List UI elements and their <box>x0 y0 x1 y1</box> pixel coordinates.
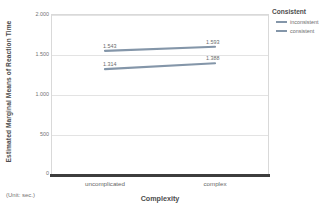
y-tick-label: 500 <box>23 132 49 137</box>
y-axis-title-text: Estimated Marginal Means of Reaction Tim… <box>6 20 13 162</box>
point-label-inconsistent-complex: 1.593 <box>206 40 220 45</box>
x-axis-line <box>50 174 270 177</box>
y-axis-title: Estimated Marginal Means of Reaction Tim… <box>0 0 18 182</box>
y-tick-label: 1.000 <box>23 92 49 97</box>
point-label-consistent-complex: 1.388 <box>206 56 220 61</box>
legend: Consistent inconsistent consistent <box>272 8 322 36</box>
unit-footnote: (Unit: sec.) <box>6 192 35 198</box>
legend-swatch-icon <box>276 21 287 23</box>
y-tick-label: 1.500 <box>23 52 49 57</box>
y-tick-label: 0 <box>23 171 49 176</box>
profile-plot: Estimated Marginal Means of Reaction Tim… <box>0 0 322 215</box>
legend-item-consistent[interactable]: consistent <box>276 28 322 34</box>
point-label-consistent-uncomplicated: 1.314 <box>103 62 117 67</box>
x-tick-label-uncomplicated: uncomplicated <box>85 180 125 187</box>
legend-item-inconsistent[interactable]: inconsistent <box>276 19 322 25</box>
legend-item-label: consistent <box>290 28 314 34</box>
legend-title: Consistent <box>272 8 322 15</box>
legend-item-label: inconsistent <box>290 19 318 25</box>
series-line-consistent <box>105 63 215 69</box>
y-axis-tick-labels: 2.000 1.500 1.000 500 0 <box>18 0 49 215</box>
series-line-inconsistent <box>105 47 215 51</box>
point-label-inconsistent-uncomplicated: 1.543 <box>103 44 117 49</box>
x-axis-title: Complexity <box>51 194 269 203</box>
y-tick-label: 2.000 <box>23 12 49 17</box>
data-series-layer <box>51 14 269 175</box>
legend-swatch-icon <box>276 30 287 32</box>
x-tick-label-complex: complex <box>203 180 226 187</box>
